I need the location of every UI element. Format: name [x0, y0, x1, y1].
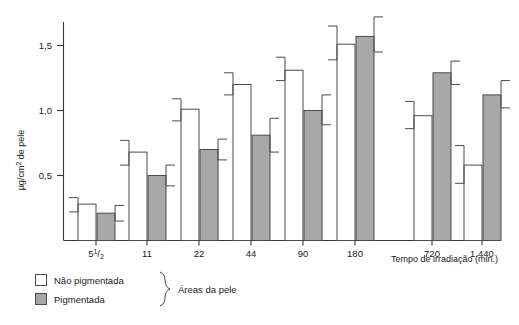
bar-group [69, 198, 124, 241]
x-tick-label: 22 [194, 248, 205, 259]
bar [414, 116, 432, 241]
bar-group [455, 81, 510, 241]
bar [483, 95, 501, 241]
legend-swatch-nao-pigmentada [36, 275, 47, 286]
legend-group-label: Áreas da pele [178, 284, 237, 295]
bar [78, 204, 96, 240]
bar-group [276, 57, 331, 240]
bar [252, 135, 270, 240]
bar [200, 150, 218, 241]
x-tick-label: 44 [246, 248, 257, 259]
bar [337, 44, 355, 240]
x-tick-label: 180 [347, 248, 363, 259]
legend-label-nao-pigmentada: Não pigmentada [54, 275, 124, 286]
chart-figure: 1,5 1,0 0,5 µg/cm2 de pele 51/2112244901… [0, 0, 519, 325]
bar [181, 109, 199, 240]
y-tick-3: 0,5 [39, 170, 52, 181]
legend-swatch-pigmentada [36, 294, 47, 305]
legend-label-pigmentada: Pigmentada [54, 294, 105, 305]
x-tick-label: 11 [142, 248, 152, 259]
bar [129, 152, 147, 240]
y-axis [57, 22, 64, 241]
y-tick-1: 1,5 [39, 40, 52, 51]
y-axis-title-text: µg/cm2 de pele [15, 130, 26, 191]
bar-group [172, 99, 227, 241]
legend-brace-icon [160, 272, 170, 306]
bar-group [224, 73, 279, 241]
legend: Não pigmentada Pigmentada Áreas da pele [36, 272, 237, 306]
bar [285, 70, 303, 240]
x-tick-label: 51/2 [88, 248, 104, 260]
bar [464, 165, 482, 240]
bar-group [120, 140, 175, 240]
bar-groups [69, 17, 510, 241]
bar [97, 213, 115, 240]
bar [233, 85, 251, 241]
bar [433, 73, 451, 241]
y-tick-2: 1,0 [39, 105, 52, 116]
bar-group [328, 17, 383, 241]
x-axis-caption: Tempo de irradiação (min.) [391, 254, 498, 264]
bar [304, 111, 322, 241]
chart-svg: 1,5 1,0 0,5 µg/cm2 de pele 51/2112244901… [0, 0, 519, 325]
bar-group [405, 61, 460, 240]
bar [148, 176, 166, 241]
x-tick-label: 90 [298, 248, 309, 259]
bar [356, 36, 374, 240]
y-tick-labels: 1,5 1,0 0,5 [39, 40, 52, 181]
y-axis-title: µg/cm2 de pele [15, 130, 26, 191]
